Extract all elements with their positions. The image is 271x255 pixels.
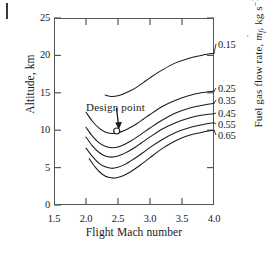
x-tick-label-2p0-wrap: 2.0 — [71, 208, 101, 226]
design-point-marker — [114, 128, 120, 134]
y2-axis-title-text: Fuel gas flow rate, — [252, 41, 264, 128]
leader-0p15 — [214, 44, 216, 53]
y2-axis-title-units: , kg s — [252, 6, 264, 30]
curve-label-leader-lines — [214, 44, 216, 135]
leader-0p55 — [214, 123, 216, 124]
x-tick-label-2p5: 2.5 — [112, 213, 125, 224]
x-tick-label-4p0-wrap: 4.0 — [199, 208, 229, 226]
curve-0p65 — [89, 130, 214, 178]
curve-0p45 — [86, 114, 214, 157]
y2-axis-ticks — [207, 18, 214, 168]
curve-0p15 — [105, 53, 214, 96]
curve-label-0p65: 0.65 — [218, 130, 236, 141]
x-tick-label-2p0: 2.0 — [80, 213, 93, 224]
leader-0p25 — [214, 88, 216, 91]
x-tick-label-3p5-wrap: 3.5 — [167, 208, 197, 226]
x-tick-label-3p0: 3.0 — [144, 213, 157, 224]
x-axis-top-ticks — [86, 18, 182, 25]
leader-0p35 — [214, 100, 216, 103]
x-tick-label-1p5-wrap: 1.5 — [39, 208, 69, 226]
mass-flow-symbol: m — [252, 33, 264, 41]
curve-label-0p25: 0.25 — [218, 83, 236, 94]
x-axis-ticks — [86, 198, 182, 205]
leader-0p45 — [214, 113, 216, 114]
data-curves — [86, 53, 214, 178]
x-tick-label-1p5: 1.5 — [48, 213, 61, 224]
y2-axis-title: Fuel gas flow rate, mf, kg s−1 — [251, 0, 266, 153]
y-tick-label-5-wrap: 5 — [24, 163, 50, 173]
y-axis-ticks — [54, 18, 61, 205]
figure-panel: 25 20 15 10 5 0 1.5 2.0 2.5 3.0 3.5 4.0 … — [0, 0, 271, 255]
x-tick-label-4p0: 4.0 — [208, 213, 221, 224]
x-axis-title: Flight Mach number — [54, 226, 214, 238]
x-tick-label-3p0-wrap: 3.0 — [135, 208, 165, 226]
x-tick-label-2p5-wrap: 2.5 — [103, 208, 133, 226]
y2-axis-title-exponent: −1 — [251, 0, 260, 6]
x-tick-label-3p5: 3.5 — [176, 213, 189, 224]
leader-0p65 — [214, 130, 216, 135]
y-tick-label-5: 5 — [28, 163, 50, 173]
curve-label-0p35: 0.35 — [218, 95, 236, 106]
y-axis-title: Altitude, km — [24, 4, 36, 164]
curve-label-0p15: 0.15 — [218, 39, 236, 50]
curve-label-0p45: 0.45 — [218, 108, 236, 119]
curve-label-0p55: 0.55 — [218, 119, 236, 130]
design-point-label: Design point — [86, 101, 145, 113]
curve-0p55 — [86, 123, 214, 169]
